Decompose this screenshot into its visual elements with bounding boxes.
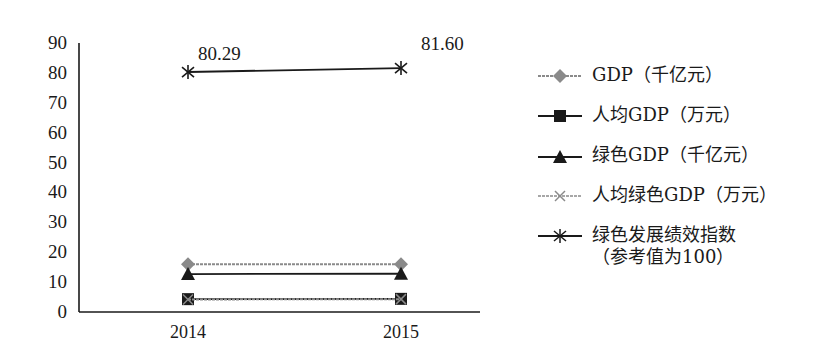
data-label: 80.29 <box>198 43 241 64</box>
legend-label: 人均绿色GDP（万元） <box>592 184 777 206</box>
y-tick-label: 50 <box>48 152 67 173</box>
x-tick-label: 2014 <box>170 322 206 342</box>
data-label: 81.60 <box>421 33 464 54</box>
y-tick-label: 90 <box>48 32 67 53</box>
legend-label: 绿色GDP（千亿元） <box>592 144 759 166</box>
y-tick-label: 10 <box>48 271 67 292</box>
y-tick-label: 0 <box>58 301 68 322</box>
legend-label: 人均GDP（万元） <box>592 104 741 126</box>
legend-item-per-capita-gdp: 人均GDP（万元） <box>536 104 806 144</box>
y-tick-label: 30 <box>48 211 67 232</box>
y-tick-label: 20 <box>48 241 67 262</box>
star-marker-icon <box>536 228 584 244</box>
chart-legend: GDP（千亿元） 人均GDP（万元） 绿色GDP（千亿元） 人均绿色GDP（万元… <box>536 64 806 284</box>
x-tick-label: 2015 <box>383 322 419 342</box>
y-tick-label: 80 <box>48 62 67 83</box>
line-chart: 01020304050607080902014201580.2981.60 <box>0 0 530 363</box>
legend-item-gdp: GDP（千亿元） <box>536 64 806 104</box>
diamond-marker-icon <box>536 68 584 84</box>
series-x <box>183 294 406 304</box>
square-marker-icon <box>536 108 584 124</box>
series-diamond <box>181 257 408 271</box>
legend-label-sub: （参考值为100） <box>592 246 736 268</box>
legend-item-green-gdp: 绿色GDP（千亿元） <box>536 144 806 184</box>
legend-label-main: 绿色发展绩效指数 <box>592 224 736 246</box>
y-tick-label: 60 <box>48 122 67 143</box>
y-tick-label: 40 <box>48 181 67 202</box>
legend-label: GDP（千亿元） <box>592 64 723 86</box>
legend-item-green-development-index: 绿色发展绩效指数 （参考值为100） <box>536 224 806 284</box>
legend-label: 绿色发展绩效指数 （参考值为100） <box>592 224 736 268</box>
series-triangle <box>181 267 408 280</box>
legend-item-per-capita-green-gdp: 人均绿色GDP（万元） <box>536 184 806 224</box>
y-tick-label: 70 <box>48 92 67 113</box>
x-marker-icon <box>536 188 584 204</box>
triangle-marker-icon <box>536 148 584 164</box>
